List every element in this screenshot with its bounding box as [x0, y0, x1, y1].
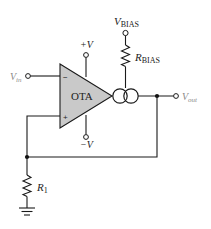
circuit-diagram: VBIAS RBIAS +V OTA − + −V Vin: [0, 0, 211, 229]
plus-v-terminal: +V: [80, 39, 95, 77]
svg-text:−V: −V: [80, 139, 95, 150]
v-bias-terminal: VBIAS: [114, 15, 139, 36]
svg-text:OTA: OTA: [71, 90, 93, 102]
r-bias-resistor: RBIAS: [122, 36, 160, 88]
inverting-input-sign: −: [63, 73, 68, 82]
v-bias-node: [123, 30, 128, 35]
svg-text:Vout: Vout: [182, 91, 198, 104]
ground-icon: [19, 208, 35, 215]
svg-text:+V: +V: [80, 39, 95, 50]
r1-resistor: R1: [23, 157, 48, 208]
svg-text:R1: R1: [36, 181, 48, 195]
svg-text:Vin: Vin: [10, 71, 22, 84]
current-source: [113, 89, 138, 103]
v-in-terminal: Vin: [10, 71, 60, 84]
v-out-terminal: Vout: [138, 91, 198, 104]
minus-v-terminal: −V: [80, 115, 95, 150]
noninverting-input-sign: +: [63, 113, 68, 122]
svg-text:RBIAS: RBIAS: [134, 51, 160, 65]
svg-text:VBIAS: VBIAS: [114, 15, 139, 29]
